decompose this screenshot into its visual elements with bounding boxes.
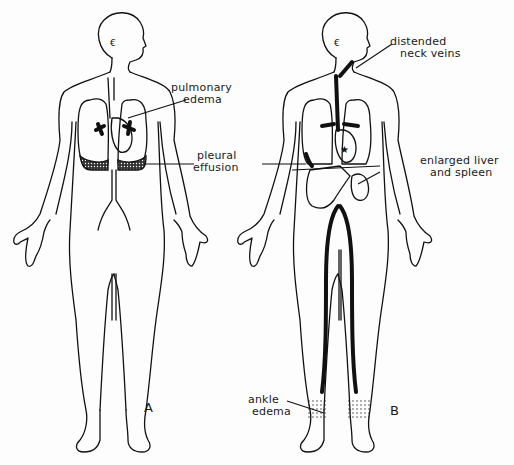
annotation-line2: effusion: [193, 162, 239, 174]
svg-text:€: €: [110, 38, 116, 48]
annotation-line2: neck veins: [390, 48, 461, 60]
panel-label-a: A: [144, 400, 153, 415]
heart-failure-diagram: €: [0, 0, 514, 465]
panel-label-b: B: [390, 403, 399, 418]
annotation-enlarged-liver-spleen: enlarged liver and spleen: [420, 155, 499, 179]
annotation-distended-neck-veins: distended neck veins: [390, 36, 461, 60]
svg-text:★: ★: [340, 144, 349, 155]
annotation-pleural-effusion: pleural effusion: [197, 150, 239, 174]
figure-b-body: € ★: [238, 13, 432, 452]
annotation-ankle-edema: ankle edema: [248, 394, 291, 418]
annotation-line2: edema: [248, 406, 291, 418]
annotation-line2: edema: [171, 94, 232, 106]
svg-text:€: €: [334, 38, 340, 48]
figure-a-body: €: [14, 13, 208, 452]
annotation-line2: and spleen: [420, 167, 499, 179]
annotation-pulmonary-edema: pulmonary edema: [171, 82, 232, 106]
